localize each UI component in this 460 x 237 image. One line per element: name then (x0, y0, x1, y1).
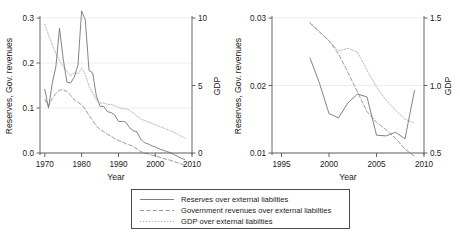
right-panel-ytick-right-2: 1.5 (430, 14, 442, 23)
right-panel-y-ticks-right: 0.5 1.0 1.5 (424, 14, 442, 158)
right-panel-xtick-2: 2005 (367, 160, 386, 169)
dashed-line-key (139, 206, 175, 215)
series-gdp-left (45, 24, 185, 138)
series-reserves-left (45, 11, 185, 160)
dotted-line-key (139, 217, 175, 226)
left-panel-y-ticks: 0.0 0.1 0.2 0.3 (23, 14, 40, 158)
left-panel-ylabel: Reserves, Gov. revenues (4, 38, 14, 134)
right-panel-xtick-3: 2010 (415, 160, 434, 169)
left-panel-y-ticks-right: 0 5 10 (192, 14, 208, 158)
right-panel-gridlines (272, 18, 424, 153)
left-panel-gridlines (40, 18, 192, 153)
series-reserves-right (310, 58, 415, 139)
legend-item-reserves: Reserves over external liabilties (132, 194, 349, 205)
series-revenues-left (45, 90, 185, 166)
right-panel-x-ticks: 1995 2000 2005 2010 (272, 153, 433, 169)
left-panel-x-ticks: 1970 1980 1990 2000 2010 (36, 153, 202, 169)
left-panel-ytick-1: 0.1 (23, 104, 35, 113)
legend-label-revenues: Government revenues over external liabil… (181, 206, 331, 215)
legend-label-gdp: GDP over external liabilties (181, 217, 272, 226)
left-panel-ytick-3: 0.3 (23, 14, 35, 23)
series-revenues-right (310, 23, 415, 156)
right-panel-xtick-1: 2000 (320, 160, 339, 169)
legend: Reserves over external liabilties Govern… (131, 189, 350, 229)
left-panel-xtick-2: 1990 (109, 160, 128, 169)
right-panel-ytick-1: 0.02 (250, 82, 266, 91)
right-panel-series (310, 23, 415, 157)
left-panel-series (45, 11, 185, 165)
left-panel-ytick-right-1: 5 (198, 82, 203, 91)
right-panel-ytick-0: 0.01 (250, 149, 266, 158)
left-panel-xlabel: Year (107, 172, 125, 182)
left-panel: 0.0 0.1 0.2 0.3 Reserves, Gov. revenues … (0, 0, 230, 185)
left-panel-xtick-4: 2010 (183, 160, 202, 169)
right-panel-xtick-0: 1995 (272, 160, 291, 169)
left-panel-plot: 0.0 0.1 0.2 0.3 Reserves, Gov. revenues … (0, 0, 230, 185)
right-panel-plot: 0.01 0.02 0.03 Reserves, Gov. revenues 0… (230, 0, 460, 185)
left-panel-xtick-3: 2000 (146, 160, 165, 169)
figure-container: 0.0 0.1 0.2 0.3 Reserves, Gov. revenues … (0, 0, 460, 237)
left-panel-ytick-right-2: 10 (198, 14, 208, 23)
right-panel-xlabel: Year (339, 172, 357, 182)
right-panel-ylabel-right: GDP (443, 76, 453, 95)
legend-item-gdp: GDP over external liabilties (132, 216, 349, 227)
left-panel-ytick-right-0: 0 (198, 149, 203, 158)
right-panel-ylabel: Reserves, Gov. revenues (233, 38, 243, 134)
left-panel-ytick-2: 0.2 (23, 59, 35, 68)
legend-item-revenues: Government revenues over external liabil… (132, 205, 349, 216)
right-panel-ytick-2: 0.03 (250, 14, 266, 23)
left-panel-xtick-0: 1970 (36, 160, 55, 169)
right-panel-ytick-right-1: 1.0 (430, 82, 442, 91)
left-panel-xtick-1: 1980 (72, 160, 91, 169)
right-panel: 0.01 0.02 0.03 Reserves, Gov. revenues 0… (230, 0, 460, 185)
legend-label-reserves: Reserves over external liabilties (181, 195, 288, 204)
left-panel-ylabel-right: GDP (212, 76, 222, 95)
solid-line-key (139, 195, 175, 204)
right-panel-y-ticks: 0.01 0.02 0.03 (250, 14, 272, 158)
left-panel-ytick-0: 0.0 (23, 149, 35, 158)
right-panel-ytick-right-0: 0.5 (430, 149, 442, 158)
